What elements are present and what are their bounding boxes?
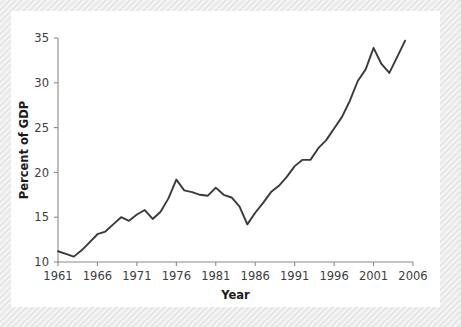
data-series-group [58,41,405,257]
y-tick-label: 25 [34,121,49,135]
y-tick-label: 30 [34,76,49,90]
y-axis-title: Percent of GDP [17,101,31,200]
x-tick-label: 1981 [201,269,230,283]
y-axis: 101520253035 [34,31,58,269]
y-tick-label: 10 [34,255,49,269]
x-tick-label: 1961 [43,269,72,283]
x-tick-label: 2001 [359,269,388,283]
y-tick-label: 20 [34,166,49,180]
figure-background: 101520253035 196119661971197619811986199… [0,0,461,327]
x-tick-label: 1971 [122,269,151,283]
x-tick-label: 1976 [162,269,191,283]
y-tick-label: 15 [34,210,49,224]
x-tick-label: 1986 [241,269,270,283]
x-axis: 1961196619711976198119861991199620012006 [43,262,427,283]
x-tick-label: 1966 [83,269,112,283]
x-tick-label: 1996 [319,269,348,283]
line-chart: 101520253035 196119661971197619811986199… [11,11,440,307]
chart-panel: 101520253035 196119661971197619811986199… [11,11,440,307]
x-axis-title: Year [220,288,250,302]
x-tick-label: 1991 [280,269,309,283]
series-line [58,41,405,257]
x-tick-label: 2006 [398,269,427,283]
y-tick-label: 35 [34,31,49,45]
